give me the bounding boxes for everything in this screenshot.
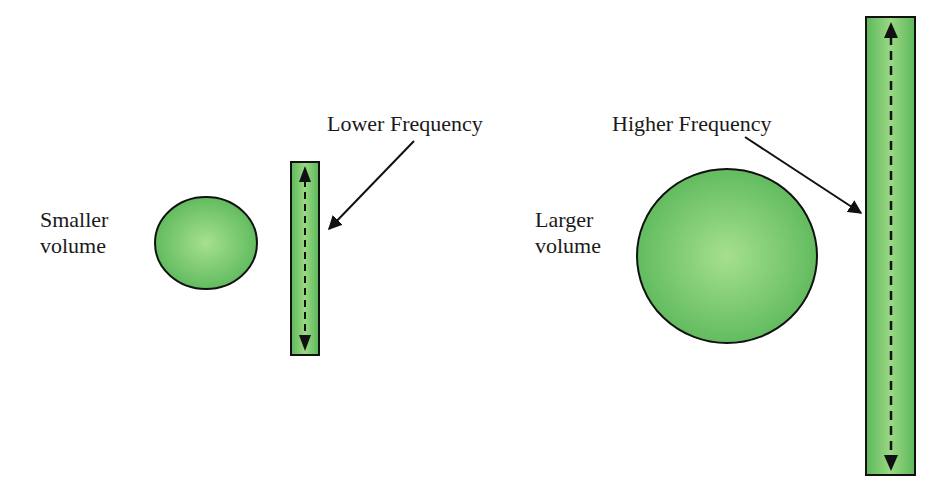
smaller-volume-label: Smaller volume	[40, 207, 108, 259]
diagram-canvas: Smaller volume Lower Frequency Larger vo…	[0, 0, 950, 500]
smaller-volume-label-line1: Smaller	[40, 207, 108, 233]
smaller-volume-label-line2: volume	[40, 233, 108, 259]
large-volume-sphere	[637, 169, 817, 343]
small-volume-sphere	[155, 197, 257, 289]
higher-frequency-label: Higher Frequency	[612, 111, 771, 137]
lower-frequency-pointer-arrow	[329, 141, 414, 229]
lower-frequency-label: Lower Frequency	[327, 111, 483, 137]
larger-volume-label-line2: volume	[535, 233, 601, 259]
short-tube	[291, 162, 319, 355]
long-tube	[866, 17, 915, 475]
larger-volume-label: Larger volume	[535, 207, 601, 259]
diagram-graphics	[0, 0, 950, 500]
larger-volume-label-line1: Larger	[535, 207, 601, 233]
